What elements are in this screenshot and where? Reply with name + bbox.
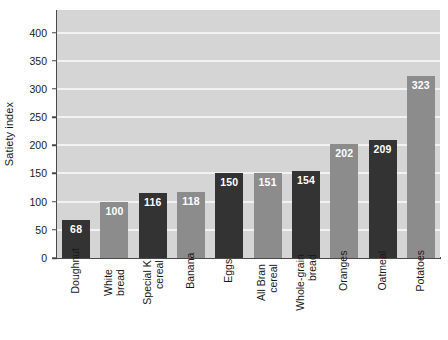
gridline [57, 60, 440, 62]
x-axis-category-label-line: Whole-grain [294, 254, 306, 311]
x-axis-category-label: Special Kcereal [134, 261, 172, 340]
y-axis-tick-mark [52, 116, 57, 118]
bar-value-label: 151 [254, 176, 282, 188]
y-axis-tick-label: 350 [29, 55, 47, 67]
y-axis-tick-mark [52, 201, 57, 203]
bar[interactable]: 209 [369, 140, 397, 258]
x-axis-category-label: Whole-grainbread [287, 261, 325, 340]
satiety-index-bar-chart: Satiety index 050100150200250300350400 6… [0, 0, 448, 340]
x-axis-category-label-line: Eggs [224, 259, 236, 283]
bar[interactable]: 151 [254, 173, 282, 258]
gridline [57, 32, 440, 34]
y-axis-tick-mark [52, 32, 57, 34]
bar-value-label: 150 [215, 176, 243, 188]
x-axis-category-label-line: bread [306, 254, 318, 311]
x-axis-category-label-line: Oatmeal [377, 251, 389, 291]
y-axis-tick-label: 0 [41, 252, 47, 264]
y-axis-tick-mark [52, 257, 57, 259]
y-axis-tick-label: 200 [29, 139, 47, 151]
y-axis-tick-label: 250 [29, 111, 47, 123]
x-axis-category-label-line: bread [114, 269, 126, 296]
bar-value-label: 68 [62, 223, 90, 235]
y-axis-tick-mark [52, 229, 57, 231]
gridline [57, 116, 440, 118]
bar[interactable]: 150 [215, 173, 243, 258]
bar-value-label: 202 [330, 147, 358, 159]
y-axis-title: Satiety index [0, 10, 18, 258]
x-axis-category-label: Eggs [210, 261, 248, 340]
y-axis-tick-mark [52, 145, 57, 147]
x-axis-category-label: Oatmeal [363, 261, 401, 340]
plot-area: 68100116118150151154202209323 [57, 10, 440, 258]
y-axis-tick-label: 150 [29, 167, 47, 179]
y-axis-tick-label: 300 [29, 83, 47, 95]
x-axis-category-label: Doughnut [57, 261, 95, 340]
bar[interactable]: 116 [139, 193, 167, 258]
bar[interactable]: 118 [177, 192, 205, 259]
y-axis-tick-mark [52, 88, 57, 90]
x-axis-category-labels: DoughnutWhitebreadSpecial KcerealBananaE… [57, 261, 440, 340]
x-axis-category-label: Banana [172, 261, 210, 340]
bar-value-label: 323 [407, 79, 435, 91]
y-axis-tick-label: 100 [29, 196, 47, 208]
bar-value-label: 100 [100, 205, 128, 217]
bar-value-label: 209 [369, 143, 397, 155]
bar-value-label: 154 [292, 174, 320, 186]
bar[interactable]: 323 [407, 76, 435, 258]
x-axis-category-label-line: Special K [141, 260, 153, 304]
bar[interactable]: 100 [100, 202, 128, 258]
y-axis-tick-mark [52, 173, 57, 175]
y-axis-tick-labels: 050100150200250300350400 [18, 0, 52, 340]
y-axis-tick-label: 400 [29, 27, 47, 39]
x-axis-category-label-line: cereal [153, 260, 165, 304]
bar-value-label: 116 [139, 196, 167, 208]
x-axis-category-label-line: Potatoes [415, 250, 427, 291]
bar[interactable]: 154 [292, 171, 320, 258]
gridline [57, 88, 440, 90]
x-axis-category-label-line: Doughnut [70, 248, 82, 294]
x-axis-category-label-line: White [103, 269, 115, 296]
y-axis-tick-mark [52, 60, 57, 62]
x-axis-category-label-line: Banana [185, 252, 197, 288]
x-axis-category-label: Oranges [325, 261, 363, 340]
bar[interactable]: 202 [330, 144, 358, 258]
x-axis-category-label: Whitebread [95, 261, 133, 340]
x-axis-category-label: All Brancereal [249, 261, 287, 340]
bar-value-label: 118 [177, 195, 205, 207]
x-axis-category-label-line: cereal [268, 264, 280, 301]
x-axis-category-label: Potatoes [402, 261, 440, 340]
x-axis-category-label-line: Oranges [339, 250, 351, 290]
y-axis-title-text: Satiety index [3, 102, 15, 166]
y-axis-tick-label: 50 [35, 224, 47, 236]
